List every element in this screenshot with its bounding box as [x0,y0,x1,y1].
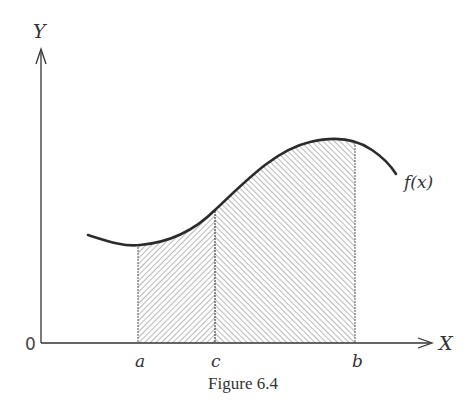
point-b-label: b [352,351,363,371]
figure-caption: Figure 6.4 [208,374,278,393]
integral-diagram: Y X 0 a c b f(x) Figure 6.4 [0,0,476,419]
x-axis-label: X [437,332,454,354]
point-a-label: a [135,351,145,371]
region-c-to-b [215,100,355,343]
point-c-label: c [211,351,221,371]
y-axis-label: Y [33,20,48,42]
origin-label: 0 [25,334,36,354]
curve-label: f(x) [402,172,433,192]
